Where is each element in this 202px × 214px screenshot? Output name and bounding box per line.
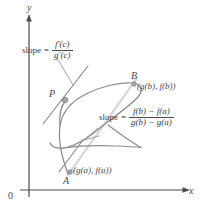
- origin-label: 0: [8, 191, 13, 201]
- point-label-A: A: [63, 176, 69, 186]
- parametric-curve-lower: [63, 146, 141, 148]
- y-axis-label: y: [27, 3, 31, 13]
- tangent-formula-equals: =: [44, 45, 49, 55]
- point-marker-P: [62, 97, 68, 103]
- tangent-formula-fraction: f′(c) g′(c): [52, 40, 72, 61]
- secant-formula-denominator: g(b) − g(a): [129, 118, 174, 128]
- tangent-formula-numerator: f′(c): [53, 40, 71, 50]
- secant-formula-fraction: f(b) − f(a) g(b) − g(a): [129, 107, 174, 128]
- point-coordinates-A: (g(a), f(a)): [73, 166, 111, 175]
- secant-formula-equals: =: [121, 112, 126, 122]
- x-axis-label: x: [189, 186, 193, 196]
- tangent-formula-lhs: slope: [22, 45, 41, 55]
- point-marker-B: [132, 82, 137, 87]
- y-axis-arrowhead: [26, 14, 32, 22]
- cauchy-mvt-figure: y x 0 P B (g(b), f(b)) A (g(a), f(a)) sl…: [0, 0, 202, 214]
- point-label-B: B: [131, 71, 137, 81]
- tangent-slope-formula: slope = f′(c) g′(c): [22, 40, 73, 61]
- secant-slope-formula: slope = f(b) − f(a) g(b) − g(a): [99, 107, 174, 128]
- parametric-curve-cusp: [108, 125, 141, 148]
- secant-formula-numerator: f(b) − f(a): [131, 107, 172, 117]
- secant-formula-lhs: slope: [99, 112, 118, 122]
- point-label-P: P: [49, 89, 55, 99]
- point-marker-A: [68, 170, 73, 175]
- leader-line-tangent-formula: [57, 58, 73, 85]
- tangent-formula-denominator: g′(c): [52, 51, 72, 61]
- point-coordinates-B: (g(b), f(b)): [137, 82, 175, 91]
